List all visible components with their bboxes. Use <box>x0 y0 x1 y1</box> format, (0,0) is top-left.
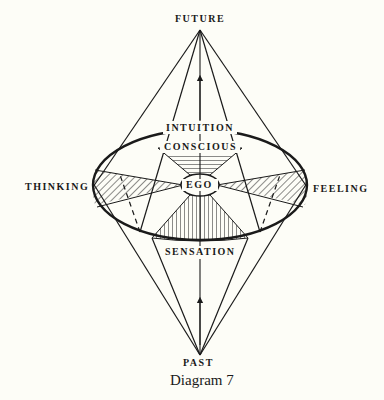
label-intuition: INTUITION <box>166 122 234 133</box>
label-past: PAST <box>183 357 214 368</box>
label-conscious: CONSCIOUS <box>164 141 237 152</box>
psyche-diagram <box>0 0 384 400</box>
label-feeling: FEELING <box>313 183 369 194</box>
label-future: FUTURE <box>175 13 225 24</box>
label-thinking: THINKING <box>25 181 89 192</box>
label-ego: EGO <box>186 179 213 190</box>
label-sensation: SENSATION <box>165 246 236 257</box>
diagram-caption: Diagram 7 <box>170 372 234 389</box>
